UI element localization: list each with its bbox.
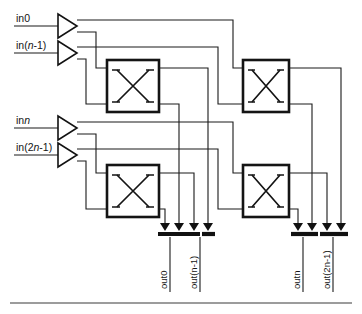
switch-stage2-top[interactable] — [243, 60, 289, 112]
buffer-in-n1[interactable] — [58, 41, 77, 65]
wire-s1top-out-upper — [159, 68, 208, 228]
output-label-out-2n1: out(2n-1) — [321, 250, 332, 289]
figure-root: in0 in(n-1) inn in(2n-1) out0 out(n-1) o… — [0, 0, 362, 314]
arrowhead-out-n1-a — [174, 223, 184, 231]
arrowhead-out0-b — [189, 223, 199, 231]
output-label-out-n1: out(n-1) — [188, 256, 199, 289]
arrowhead-out-2n1-a — [322, 223, 332, 231]
switch-stage2-bottom[interactable] — [243, 165, 289, 217]
arrowhead-out-n-b — [307, 223, 317, 231]
wire-s2bot-out-upper — [289, 173, 327, 228]
arrowhead-out-2n1-b — [336, 223, 346, 231]
arrowhead-out-n1-b — [203, 223, 213, 231]
output-label-out0: out0 — [158, 270, 169, 289]
buffer-in0[interactable] — [58, 14, 77, 38]
switch-stage1-top[interactable] — [107, 60, 159, 112]
buffer-in-n[interactable] — [58, 116, 77, 140]
switch-stage1-bottom[interactable] — [107, 165, 159, 217]
buffer-in-2n1[interactable] — [58, 143, 77, 167]
busbar-arrowheads — [160, 223, 346, 231]
arrowhead-out-n-a — [293, 223, 303, 231]
input-label-in-n: inn — [16, 114, 30, 126]
input-labels: in0 in(n-1) inn in(2n-1) — [16, 12, 52, 153]
switching-network-diagram: in0 in(n-1) inn in(2n-1) out0 out(n-1) o… — [0, 0, 362, 314]
input-label-in0: in0 — [16, 12, 30, 24]
input-label-in-2n1: in(2n-1) — [16, 141, 52, 153]
input-label-in-n1: in(n-1) — [16, 39, 46, 51]
output-label-out-n: outn — [291, 270, 302, 289]
arrowhead-out0-a — [160, 223, 170, 231]
buffer-group — [58, 14, 77, 167]
wire-s1bot-out-upper — [159, 173, 194, 228]
wire-in0-cross — [77, 32, 107, 68]
wire-in-n1-cross — [77, 59, 107, 104]
output-labels: out0 out(n-1) outn out(2n-1) — [158, 250, 332, 289]
wire-in-n-cross — [77, 134, 107, 173]
wire-in-2n1-cross — [77, 161, 107, 209]
wire-s2top-out-upper — [289, 68, 341, 228]
